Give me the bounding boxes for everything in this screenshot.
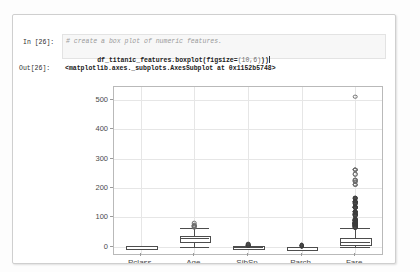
boxplot-outlier	[353, 225, 358, 230]
text-cursor	[269, 56, 270, 63]
code-suffix: ))	[261, 57, 269, 64]
x-tick-mark	[140, 253, 141, 256]
boxplot-outlier	[299, 243, 304, 248]
x-gridline	[302, 87, 303, 254]
x-tick-mark	[193, 253, 194, 256]
input-prompt-label: In [26]:	[23, 39, 54, 46]
boxplot-outlier	[353, 182, 358, 187]
x-gridline	[248, 87, 249, 254]
code-input-area[interactable]: # create a box plot of numeric features.…	[62, 34, 386, 59]
boxplot-outlier	[192, 221, 197, 226]
boxplot-outlier	[353, 94, 358, 99]
boxplot-median	[126, 246, 155, 247]
plot-area	[113, 86, 383, 255]
x-tick-label-pclass: Pclass	[128, 258, 152, 264]
y-tick-label: 300	[95, 153, 108, 162]
y-tick-label: 200	[95, 183, 108, 192]
y-tick-mark	[110, 99, 113, 100]
x-tick-mark	[354, 253, 355, 256]
y-tick-label: 500	[95, 95, 108, 104]
boxplot-median	[180, 238, 209, 239]
screenshot-root: In [26]: # create a box plot of numeric …	[0, 0, 420, 272]
boxplot-outlier	[246, 242, 251, 247]
x-gridline	[141, 87, 142, 254]
y-tick-label: 100	[95, 212, 108, 221]
x-tick-label-sibsp: SibSp	[236, 258, 257, 264]
boxplot-whisker-cap	[180, 247, 209, 248]
y-tick-mark	[110, 216, 113, 217]
x-tick-mark	[301, 253, 302, 256]
x-tick-label-fare: Fare	[346, 258, 362, 264]
notebook-cell[interactable]: In [26]: # create a box plot of numeric …	[12, 14, 396, 264]
y-tick-label: 400	[95, 124, 108, 133]
boxplot-outlier	[353, 172, 358, 177]
y-tick-mark	[110, 128, 113, 129]
code-args: (10,6)	[238, 57, 261, 64]
boxplot-median	[340, 242, 369, 243]
output-text-repr: <matplotlib.axes._subplots.AxesSubplot a…	[65, 65, 276, 72]
x-tick-mark	[247, 253, 248, 256]
y-tick-label: 0	[104, 241, 108, 250]
x-tick-label-age: Age	[186, 258, 200, 264]
y-tick-mark	[110, 158, 113, 159]
matplotlib-figure: 0100200300400500PclassAgeSibSpParchFare	[51, 77, 395, 259]
code-call-prefix: df_titanic_features.boxplot(figsize=	[97, 57, 237, 64]
x-tick-label-parch: Parch	[290, 258, 311, 264]
boxplot-whisker-cap	[340, 247, 369, 248]
output-prompt-label: Out[26]:	[19, 65, 50, 72]
y-tick-mark	[110, 246, 113, 247]
y-tick-mark	[110, 187, 113, 188]
